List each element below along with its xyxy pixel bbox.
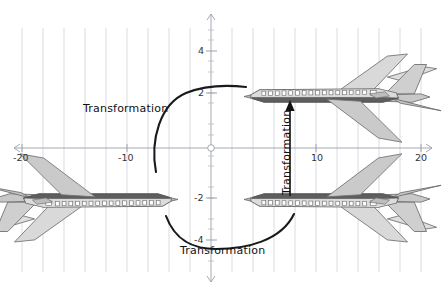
x-tick-label-neg20: -20: [13, 152, 29, 163]
y-tick-label-2: 2: [198, 87, 204, 98]
x-tick-label-10: 10: [311, 152, 323, 163]
transformation-label-vertical: Transformation: [280, 110, 293, 195]
y-tick-label-4: 4: [198, 45, 204, 56]
transformation-label-upper: Transformation: [83, 102, 168, 115]
grid-vertical-lines: [22, 28, 421, 272]
y-tick-label-neg2: -2: [194, 192, 203, 203]
x-tick-label-neg10: -10: [118, 152, 134, 163]
x-tick-label-20: 20: [415, 152, 427, 163]
transformation-label-lower: Transformation: [180, 244, 265, 257]
x-axis: [14, 144, 432, 152]
airplane-bottom-right: [244, 154, 441, 242]
origin-marker: [208, 145, 215, 152]
airplane-top-right: [244, 54, 441, 142]
airplane-bottom-left: [0, 154, 178, 242]
figure-canvas: -20 -10 10 20 4 2 -2 -4 Transformation T…: [0, 0, 446, 295]
